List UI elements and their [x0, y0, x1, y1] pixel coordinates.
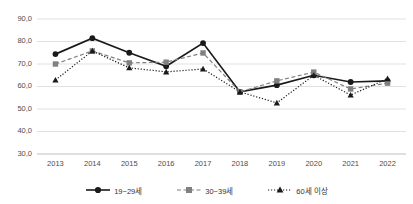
series-circle [53, 35, 391, 95]
series-triangle [52, 48, 390, 106]
legend-marker-square-icon [176, 185, 202, 195]
series-square [53, 48, 391, 94]
line-chart: 90,080,070,060,050,040,030,0 20132014201… [0, 0, 413, 204]
data-point-marker [348, 92, 354, 98]
x-axis-tick-label: 2021 [342, 159, 359, 168]
plot-area: 90,080,070,060,050,040,030,0 20132014201… [0, 0, 413, 172]
series-lines [52, 35, 390, 105]
x-axis-tick-label: 2018 [232, 159, 249, 168]
y-axis-tick-label: 70,0 [17, 59, 32, 68]
data-point-marker [348, 86, 353, 91]
data-point-marker [274, 78, 279, 83]
data-point-marker [348, 79, 354, 85]
data-point-marker [200, 40, 206, 46]
legend-label-19-29: 19~29세 [114, 185, 142, 196]
x-axis-tick-label: 2022 [379, 159, 396, 168]
x-axis-tick-label: 2016 [158, 159, 175, 168]
x-axis-tick-label: 2014 [84, 159, 101, 168]
data-point-marker [200, 50, 205, 55]
data-point-marker [53, 61, 58, 66]
y-axis-tick-label: 80,0 [17, 36, 32, 45]
legend-marker-circle-icon [85, 185, 111, 195]
y-axis-tick-label: 30,0 [17, 149, 32, 158]
x-axis-tick-label: 2020 [305, 159, 322, 168]
data-point-marker [163, 60, 168, 65]
legend-label-60-plus: 60세 이상 [296, 185, 327, 196]
legend-label-30-39: 30~39세 [205, 185, 233, 196]
legend-marker-triangle-icon [267, 185, 293, 195]
legend-item-30-39: 30~39세 [176, 185, 233, 196]
y-axis-ticks: 90,080,070,060,050,040,030,0 [17, 14, 32, 158]
y-axis-tick-label: 40,0 [17, 126, 32, 135]
x-axis-tick-label: 2017 [195, 159, 212, 168]
legend-item-19-29: 19~29세 [85, 185, 142, 196]
y-axis-tick-label: 50,0 [17, 104, 32, 113]
chart-svg: 90,080,070,060,050,040,030,0 20132014201… [0, 0, 413, 172]
chart-legend: 19~29세 30~39세 60세 이상 [0, 176, 413, 204]
x-axis-tick-label: 2015 [121, 159, 138, 168]
data-point-marker [126, 50, 132, 56]
data-point-marker [385, 80, 390, 85]
y-axis-tick-label: 90,0 [17, 14, 32, 23]
data-point-marker [384, 76, 390, 82]
data-point-marker [53, 51, 59, 57]
data-point-marker [89, 35, 95, 41]
legend-item-60-plus: 60세 이상 [267, 185, 327, 196]
x-axis-tick-label: 2013 [47, 159, 64, 168]
x-axis-ticks: 2013201420152016201720182019202020212022 [47, 159, 396, 168]
x-axis-tick-label: 2019 [269, 159, 286, 168]
y-axis-tick-label: 60,0 [17, 81, 32, 90]
